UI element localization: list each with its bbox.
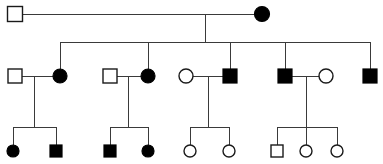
pedigree-symbol-square-affected-II-7 [278,69,292,83]
pedigree-svg [0,0,383,164]
pedigree-symbol-circle-unaffected-II-5 [179,69,193,83]
pedigree-symbol-square-unaffected-III-7 [271,145,283,157]
pedigree-symbol-square-affected-III-2 [50,145,62,157]
pedigree-symbol-square-affected-II-9 [363,69,377,83]
pedigree-symbol-circle-unaffected-III-8 [300,145,312,157]
pedigree-symbol-square-unaffected-II-3 [103,69,117,83]
pedigree-symbol-square-affected-III-3 [104,145,116,157]
pedigree-symbol-circle-affected-I-2 [255,7,270,22]
pedigree-symbol-square-unaffected-I-1 [8,7,23,22]
pedigree-symbol-circle-affected-II-4 [141,69,155,83]
pedigree-symbol-circle-unaffected-III-6 [223,145,235,157]
pedigree-symbol-circle-affected-III-4 [142,145,154,157]
pedigree-symbol-square-unaffected-II-1 [8,69,22,83]
pedigree-symbol-circle-affected-II-2 [53,69,67,83]
pedigree-symbol-square-affected-II-6 [223,69,237,83]
symbol-layer [7,7,377,158]
pedigree-symbol-circle-affected-III-1 [7,145,19,157]
pedigree-symbol-circle-unaffected-III-5 [184,145,196,157]
pedigree-chart [0,0,383,164]
pedigree-symbol-circle-unaffected-III-9 [331,145,343,157]
pedigree-symbol-circle-unaffected-II-8 [319,69,333,83]
